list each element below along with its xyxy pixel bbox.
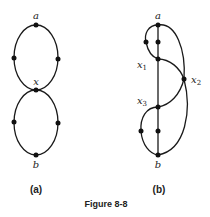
figure-8-8: a x b (a) a x1 x2 x [0, 0, 210, 217]
edge-x2-b [158, 79, 187, 155]
graph-b: a x1 x2 x3 b (b) [137, 10, 201, 195]
label-x: x [33, 76, 39, 87]
label-x2: x2 [191, 74, 201, 87]
label-x1: x1 [137, 59, 147, 72]
vertex-a [156, 23, 161, 28]
vertex-bottom-center [156, 129, 161, 134]
edge-x1-x2 [158, 59, 184, 79]
vertex-a [34, 23, 39, 28]
label-b: b [155, 159, 161, 170]
vertex-top-center [156, 40, 161, 45]
panel-label-a: (a) [30, 184, 42, 195]
vertex-x1 [156, 57, 161, 62]
panel-label-b: (b) [153, 184, 166, 195]
vertex-upper-right [56, 57, 61, 62]
figure-caption: Figure 8-8 [84, 199, 127, 209]
vertex-b [34, 153, 39, 158]
vertex-x2 [182, 77, 187, 82]
vertex-upper-left [12, 56, 17, 61]
label-x3: x3 [137, 95, 147, 108]
vertex-lower-left [12, 120, 17, 125]
vertex-lower-right [56, 121, 61, 126]
edge-x2-x3 [158, 79, 184, 107]
lower-cycle [14, 90, 58, 155]
label-b: b [33, 159, 39, 170]
vertex-top-left-loop [144, 40, 149, 45]
vertex-x [34, 88, 39, 93]
label-a: a [33, 10, 39, 21]
vertex-b [156, 153, 161, 158]
label-a: a [155, 10, 161, 21]
vertex-bottom-left-loop [139, 129, 144, 134]
vertex-x3 [156, 105, 161, 110]
graph-a: a x b (a) [12, 10, 61, 195]
